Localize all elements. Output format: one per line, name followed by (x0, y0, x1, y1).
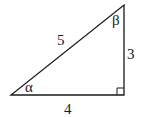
angle-alpha-label: α (25, 79, 33, 95)
right-triangle-diagram: 5 3 4 α β (0, 0, 141, 117)
right-angle-marker (117, 88, 124, 95)
vertical-side-label: 3 (127, 46, 135, 62)
hypotenuse-label: 5 (57, 32, 65, 48)
base-label: 4 (64, 101, 72, 117)
angle-beta-label: β (112, 12, 120, 28)
